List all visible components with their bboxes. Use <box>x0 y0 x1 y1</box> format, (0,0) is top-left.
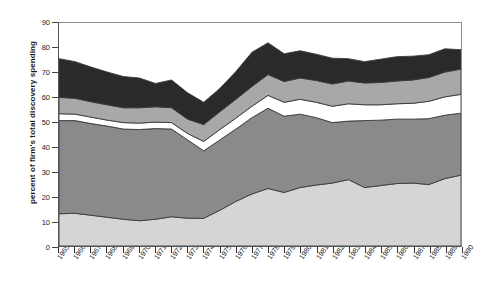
y-axis-tick-label: 0 <box>28 243 50 252</box>
y-axis-tick-label: 80 <box>28 43 50 52</box>
stacked-area-chart: percent of firm's total discovery spendi… <box>0 0 479 288</box>
y-axis-tick-label: 40 <box>28 143 50 152</box>
y-axis-tick-label: 50 <box>28 118 50 127</box>
y-axis-tick-label: 10 <box>28 218 50 227</box>
area-series-group <box>59 23 461 246</box>
y-axis-tick-label: 90 <box>28 18 50 27</box>
y-axis-tick-label: 20 <box>28 193 50 202</box>
y-axis-tick-label: 60 <box>28 93 50 102</box>
y-axis-tick-label: 30 <box>28 168 50 177</box>
y-axis-tick-label: 70 <box>28 68 50 77</box>
plot-area <box>58 22 462 247</box>
